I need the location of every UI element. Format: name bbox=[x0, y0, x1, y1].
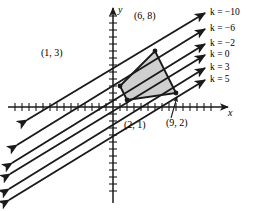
vertex-1-3 bbox=[118, 84, 123, 89]
point-label-1-3: (1, 3) bbox=[41, 47, 63, 58]
objective-line-k-neg10 bbox=[27, 13, 205, 120]
objective-line-k-5 bbox=[9, 80, 205, 200]
point-label-2-1: (2, 1) bbox=[124, 119, 146, 130]
point-label-9-2: (9, 2) bbox=[166, 117, 188, 128]
vertex-9-2 bbox=[174, 91, 179, 96]
legend-label-k-0: k = 0 bbox=[210, 49, 230, 59]
x-axis-label: x bbox=[228, 107, 232, 118]
legend-label-k-neg2: k = −2 bbox=[210, 38, 235, 48]
graph-figure: x y (1, 3) (6, 8) (2, 1) (9, 2) k = −10 … bbox=[0, 0, 260, 211]
legend-label-k-3: k = 3 bbox=[210, 62, 230, 72]
y-axis-label: y bbox=[118, 4, 122, 15]
objective-line-k-0 bbox=[10, 55, 205, 174]
point-label-6-8: (6, 8) bbox=[134, 10, 156, 21]
legend-label-k-neg6: k = −6 bbox=[210, 23, 235, 33]
vertex-6-8 bbox=[153, 49, 158, 54]
axes bbox=[8, 8, 228, 203]
vertex-2-1 bbox=[125, 98, 130, 103]
legend-label-k-5: k = 5 bbox=[210, 74, 230, 84]
legend-label-k-neg10: k = −10 bbox=[210, 7, 240, 17]
objective-line-k-3 bbox=[9, 68, 205, 189]
